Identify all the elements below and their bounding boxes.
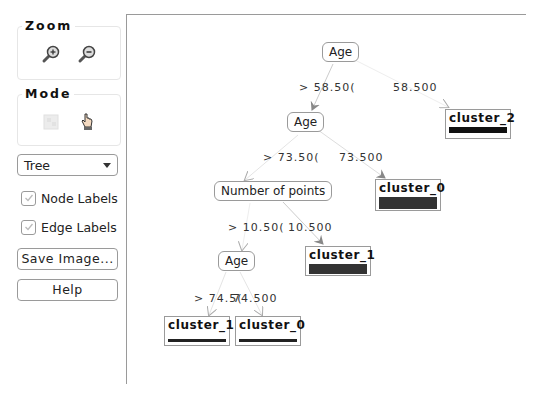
- node-label: Age: [329, 45, 352, 59]
- tree-node-leaf[interactable]: cluster_0: [375, 179, 441, 211]
- leaf-label: cluster_1: [168, 319, 226, 332]
- tree-node-split[interactable]: Age: [287, 112, 324, 132]
- edge-label: > 10.50(: [228, 221, 285, 234]
- leaf-label: cluster_0: [379, 182, 437, 195]
- edge-label: 10.500: [288, 221, 333, 234]
- tree-node-split[interactable]: Age: [322, 42, 359, 62]
- tree-node-leaf[interactable]: cluster_2: [445, 109, 511, 139]
- edge-label: > 58.50(: [299, 81, 356, 94]
- edge-label: 73.500: [339, 151, 384, 164]
- leaf-distribution-bar: [379, 197, 437, 209]
- edge-label: 74.500: [233, 292, 278, 305]
- leaf-distribution-bar: [168, 339, 226, 342]
- leaf-label: cluster_2: [449, 112, 507, 125]
- node-label: Age: [294, 115, 317, 129]
- leaf-label: cluster_1: [309, 249, 367, 262]
- tree-node-leaf[interactable]: cluster_0: [235, 316, 301, 346]
- tree-node-leaf[interactable]: cluster_1: [305, 246, 371, 276]
- tree-node-leaf[interactable]: cluster_1: [164, 316, 230, 346]
- tree-canvas[interactable]: Age Age cluster_2 Number of points clust…: [0, 0, 539, 397]
- tree-node-split[interactable]: Age: [218, 251, 255, 271]
- edge-label: 58.500: [393, 81, 438, 94]
- leaf-distribution-bar: [449, 127, 507, 133]
- leaf-distribution-bar: [239, 339, 297, 342]
- node-label: Number of points: [221, 184, 325, 198]
- tree-node-split[interactable]: Number of points: [214, 181, 332, 201]
- edge-label: > 73.50(: [263, 151, 320, 164]
- node-label: Age: [225, 254, 248, 268]
- leaf-distribution-bar: [309, 264, 367, 274]
- leaf-label: cluster_0: [239, 319, 297, 332]
